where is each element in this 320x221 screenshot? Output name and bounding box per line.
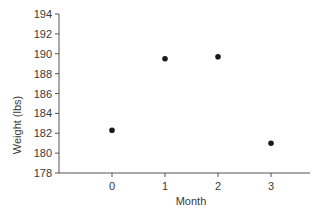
y-tick-label: 182 <box>34 127 52 139</box>
weight-scatter-chart: 178180182184186188190192194 0123 Weight … <box>0 0 320 221</box>
x-axis-title: Month <box>176 195 207 207</box>
data-point <box>215 54 221 60</box>
data-point <box>109 127 115 133</box>
data-point <box>162 56 168 62</box>
y-tick-label: 184 <box>34 107 52 119</box>
x-tick-label: 3 <box>268 180 274 192</box>
y-tick-label: 186 <box>34 88 52 100</box>
data-points <box>109 54 274 146</box>
y-tick-label: 190 <box>34 48 52 60</box>
y-tick-label: 188 <box>34 68 52 80</box>
x-axis: 0123 <box>59 173 310 192</box>
x-tick-label: 1 <box>162 180 168 192</box>
x-tick-label: 0 <box>109 180 115 192</box>
y-axis: 178180182184186188190192194 <box>34 8 59 179</box>
x-tick-label: 2 <box>215 180 221 192</box>
y-tick-label: 178 <box>34 167 52 179</box>
y-tick-label: 180 <box>34 147 52 159</box>
y-axis-title: Weight (lbs) <box>11 96 23 154</box>
y-tick-label: 194 <box>34 8 52 20</box>
y-tick-label: 192 <box>34 28 52 40</box>
data-point <box>268 140 274 146</box>
